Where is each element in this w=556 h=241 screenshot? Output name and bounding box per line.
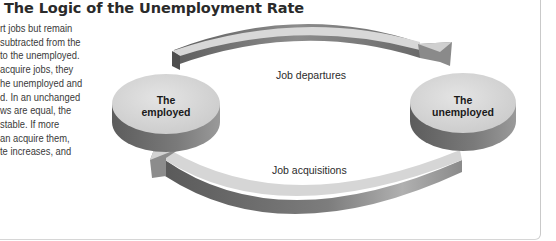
- employed-node-label: The employed: [126, 94, 206, 118]
- job-departures-label: Job departures: [276, 69, 346, 81]
- flow-diagram: [0, 0, 556, 241]
- unemployed-node-label: The unemployed: [423, 94, 503, 118]
- job-acquisitions-label: Job acquisitions: [272, 164, 347, 176]
- job-departures-arrow: [172, 24, 452, 70]
